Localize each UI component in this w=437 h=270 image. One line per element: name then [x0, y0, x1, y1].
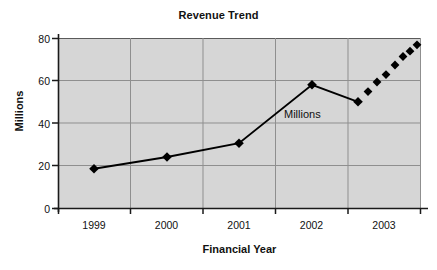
series-annotation-millions: Millions — [284, 108, 321, 120]
y-tick-label-40: 40 — [16, 118, 50, 130]
y-tick-label-0: 0 — [16, 203, 50, 215]
chart-figure: Revenue Trend Millions Financial Year — [0, 0, 437, 270]
x-tick-label-2001: 2001 — [203, 219, 275, 231]
y-tick-label-80: 80 — [16, 33, 50, 45]
x-tick-label-1999: 1999 — [58, 219, 130, 231]
x-tick-label-2000: 2000 — [131, 219, 203, 231]
x-axis-ticks — [59, 209, 421, 215]
y-tick-label-60: 60 — [16, 75, 50, 87]
x-tick-label-2003: 2003 — [348, 219, 420, 231]
y-axis-ticks — [52, 39, 58, 209]
y-tick-label-20: 20 — [16, 160, 50, 172]
x-tick-label-2002: 2002 — [276, 219, 348, 231]
